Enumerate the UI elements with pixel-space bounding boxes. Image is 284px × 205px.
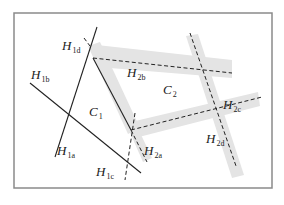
diagram-canvas: H1dH1bH2bC2C1H2cH1aH2aH2dH1c xyxy=(0,0,284,205)
